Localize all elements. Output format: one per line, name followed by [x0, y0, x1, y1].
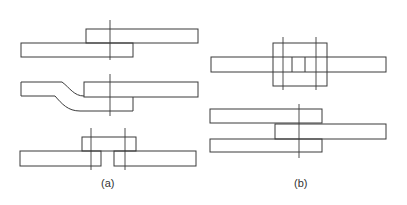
lap-joint — [21, 20, 198, 60]
straight-plate — [84, 82, 198, 97]
label-a: (a) — [101, 177, 114, 189]
double-strap-joint — [211, 37, 386, 90]
middle-plate — [275, 124, 386, 139]
joint-diagram — [0, 0, 407, 205]
right-plate — [114, 151, 196, 166]
upper-plate — [86, 29, 198, 43]
joggled-lap-joint — [21, 74, 198, 116]
bottom-plate — [210, 139, 322, 152]
label-b: (b) — [294, 177, 307, 189]
straps — [273, 43, 327, 86]
top-plate — [210, 109, 322, 123]
three-plate-lap-joint — [210, 104, 386, 158]
lower-plate — [21, 43, 133, 57]
main-plate — [211, 57, 386, 72]
single-strap-joint — [20, 128, 196, 170]
left-plate — [20, 151, 101, 166]
strap — [82, 137, 136, 151]
